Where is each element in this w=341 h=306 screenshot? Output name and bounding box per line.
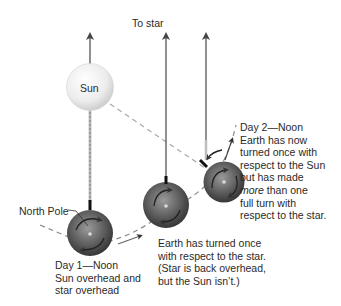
emphasis-more: more [240, 184, 264, 196]
day2-caption: Day 2—Noon Earth has now turned once wit… [240, 121, 326, 222]
day1-caption-line2: Sun overhead and [55, 272, 141, 285]
day2-caption-line1: Day 2—Noon [240, 121, 326, 134]
sun-to-earth-line [110, 104, 205, 168]
day2-caption-line5: but has made [240, 171, 326, 184]
sidereal-caption-line3: (Star is back overhead, [158, 262, 266, 275]
day2-caption-line7: full turn with [240, 197, 326, 210]
sun-label: Sun [80, 82, 99, 95]
earth-day1 [67, 200, 113, 256]
sidereal-caption-line2: with respect to the star. [158, 250, 266, 263]
sidereal-caption-line1: Earth has turned once [158, 237, 266, 250]
day1-caption-line1: Day 1—Noon [55, 259, 141, 272]
earth-after-one-sidereal-turn [143, 176, 189, 228]
to-star-label: To star [132, 17, 164, 30]
day2-caption-line6: more than one [240, 184, 326, 197]
day2-caption-line6-rest: than one [264, 184, 308, 196]
day1-caption: Day 1—Noon Sun overhead and star overhea… [55, 259, 141, 297]
day2-caption-line2: Earth has now [240, 134, 326, 147]
day2-caption-line4: respect to the Sun [240, 159, 326, 172]
orbit-arrow-1-icon [118, 236, 140, 244]
orbit-arrow-2-icon [225, 140, 232, 160]
north-pole-leader-line [68, 210, 76, 211]
day1-caption-line3: star overhead [55, 284, 141, 297]
day2-caption-line8: respect to the star. [240, 209, 326, 222]
day2-caption-line3: turned once with [240, 146, 326, 159]
sidereal-turn-caption: Earth has turned once with respect to th… [158, 237, 266, 287]
north-pole-label: North Pole [19, 205, 69, 218]
sidereal-caption-line4: but the Sun isn’t.) [158, 275, 266, 288]
